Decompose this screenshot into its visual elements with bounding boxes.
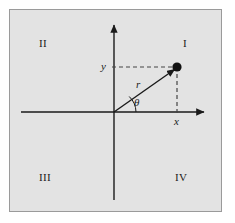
theta-angle-label: θ xyxy=(134,97,139,108)
radius-vector-line xyxy=(114,70,175,113)
y-coordinate-label: y xyxy=(101,61,106,72)
quadrant-label-III: III xyxy=(39,172,51,183)
quadrant-label-IV: IV xyxy=(175,172,187,183)
plotted-point xyxy=(172,62,181,71)
x-coordinate-label: x xyxy=(174,116,179,127)
quadrant-label-II: II xyxy=(39,38,47,49)
diagram-graphics xyxy=(0,0,235,223)
quadrant-label-I: I xyxy=(183,38,187,49)
radius-label: r xyxy=(136,79,140,90)
figure-canvas: I II III IV y x r θ xyxy=(0,0,235,223)
